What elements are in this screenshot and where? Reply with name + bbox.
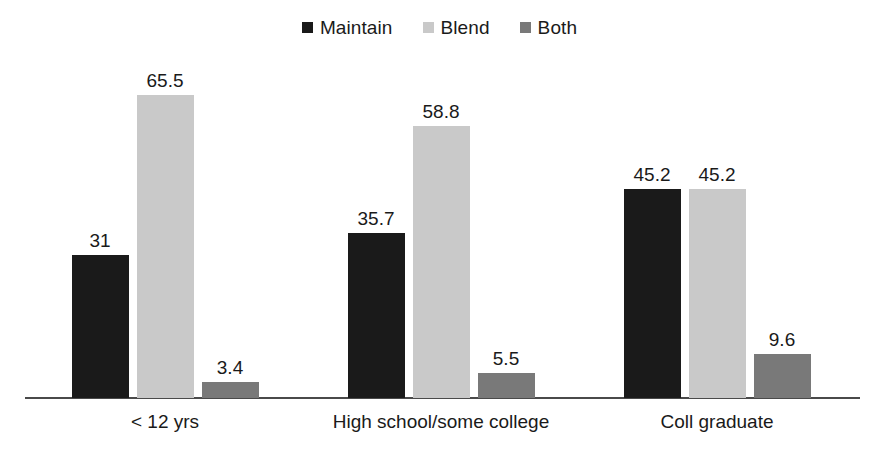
bar-maintain[interactable]: 35.7 <box>348 233 405 398</box>
bar-group: 45.245.29.6Coll graduate <box>624 0 811 457</box>
bar-both[interactable]: 5.5 <box>478 373 535 398</box>
category-label: Coll graduate <box>587 411 847 433</box>
category-label: High school/some college <box>311 411 571 433</box>
bar-group: 35.758.85.5High school/some college <box>348 0 535 457</box>
bar-rect <box>72 255 129 398</box>
bar-rect <box>754 354 811 398</box>
bar-both[interactable]: 3.4 <box>202 382 259 398</box>
bar-rect <box>624 189 681 398</box>
bar-value-label: 3.4 <box>186 358 275 377</box>
bar-value-label: 31 <box>56 231 145 250</box>
bar-value-label: 35.7 <box>332 209 421 228</box>
bar-rect <box>137 95 194 398</box>
bar-rect <box>478 373 535 398</box>
category-label: < 12 yrs <box>35 411 295 433</box>
bar-rect <box>689 189 746 398</box>
bar-maintain[interactable]: 45.2 <box>624 189 681 398</box>
bar-rect <box>202 382 259 398</box>
bar-blend[interactable]: 65.5 <box>137 95 194 398</box>
bar-chart: Maintain Blend Both 3165.53.4< 12 yrs35.… <box>0 0 879 457</box>
bar-group: 3165.53.4< 12 yrs <box>72 0 259 457</box>
bar-value-label: 5.5 <box>462 349 551 368</box>
plot-area: 3165.53.4< 12 yrs35.758.85.5High school/… <box>0 0 879 457</box>
bar-value-label: 58.8 <box>397 102 486 121</box>
bar-rect <box>348 233 405 398</box>
bar-value-label: 45.2 <box>673 165 762 184</box>
bar-value-label: 9.6 <box>738 330 827 349</box>
bar-value-label: 65.5 <box>121 71 210 90</box>
bar-blend[interactable]: 45.2 <box>689 189 746 398</box>
bar-maintain[interactable]: 31 <box>72 255 129 398</box>
bar-both[interactable]: 9.6 <box>754 354 811 398</box>
